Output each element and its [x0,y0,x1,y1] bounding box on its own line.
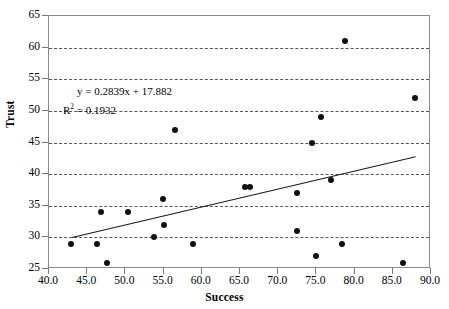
data-point [318,114,324,120]
regression-equation: y = 0.2839x + 17.882 [63,84,172,99]
y-tick-label: 65 [0,9,40,21]
gridline [49,143,429,144]
y-tick-label: 35 [0,199,40,211]
x-tick-label: 70.0 [257,275,297,287]
gridline [49,237,429,238]
y-tick-label: 55 [0,72,40,84]
data-point [160,196,166,202]
r-squared-value: = 0.1932 [74,104,116,116]
data-point [339,241,345,247]
data-point [161,222,167,228]
data-point [190,241,196,247]
x-tick-label: 40.0 [28,275,68,287]
y-axis-tick-labels: 253035404550556065 [0,0,44,309]
data-point [342,38,348,44]
y-tick-label: 50 [0,104,40,116]
data-point [400,260,406,266]
y-tickmark [42,15,48,16]
trendline [72,156,416,238]
plot-area: y = 0.2839x + 17.882 R2 = 0.1932 [48,15,430,268]
gridline [49,48,429,49]
x-tick-label: 90.0 [410,275,449,287]
data-point [309,140,315,146]
x-tick-label: 60.0 [181,275,221,287]
data-point [313,253,319,259]
x-tick-label: 50.0 [104,275,144,287]
data-point [94,241,100,247]
y-tick-label: 60 [0,41,40,53]
data-point [294,228,300,234]
x-tick-label: 65.0 [219,275,259,287]
x-tick-label: 85.0 [372,275,412,287]
data-point [104,260,110,266]
x-tick-label: 75.0 [295,275,335,287]
y-tickmark [42,268,48,269]
x-tick-label: 45.0 [66,275,106,287]
y-tickmark [42,142,48,143]
y-tickmark [42,47,48,48]
y-tickmark [42,110,48,111]
data-point [151,234,157,240]
y-tick-label: 40 [0,167,40,179]
data-point [172,127,178,133]
regression-annotation: y = 0.2839x + 17.882 R2 = 0.1932 [63,84,172,118]
data-point [412,95,418,101]
data-point [125,209,131,215]
x-tick-label: 55.0 [143,275,183,287]
gridline [49,174,429,175]
data-point [294,190,300,196]
data-point [328,177,334,183]
y-tickmark [42,78,48,79]
y-tickmark [42,236,48,237]
y-tick-label: 45 [0,136,40,148]
gridline [49,206,429,207]
y-tick-label: 25 [0,262,40,274]
x-axis-title: Success [0,291,449,303]
x-tick-label: 80.0 [334,275,374,287]
y-tick-label: 30 [0,230,40,242]
y-tickmark [42,173,48,174]
r-squared-label: R2 = 0.1932 [63,99,172,118]
data-point [247,184,253,190]
y-tickmark [42,205,48,206]
data-point [98,209,104,215]
data-point [68,241,74,247]
scatter-chart-figure: Trust 253035404550556065 y = 0.2839x + 1… [0,0,449,309]
gridline [49,79,429,80]
